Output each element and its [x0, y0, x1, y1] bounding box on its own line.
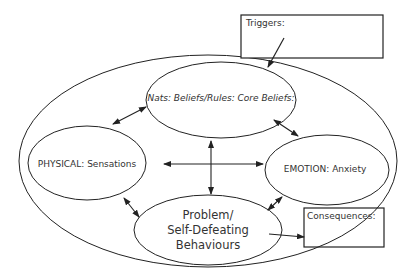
emotion-label: EMOTION: Anxiety [284, 165, 366, 174]
consequences-label: Consequences: [307, 212, 376, 221]
triggers-label: Triggers: [246, 19, 285, 28]
arrow-behaviour-consequences [269, 234, 304, 237]
behaviour-label-line1: Problem/ [148, 208, 268, 223]
cognitions-label: Nats: Beliefs/Rules: Core Beliefs: [147, 94, 294, 103]
arrow-emotion-behaviour [268, 197, 282, 210]
arrow-cognitions-emotion [274, 120, 298, 136]
behaviour-label-line3: Behaviours [148, 238, 268, 253]
behaviour-label-line2: Self-Defeating [148, 223, 268, 238]
arrow-physical-cognitions [113, 107, 146, 124]
arrow-physical-behaviour [124, 198, 139, 217]
behaviour-label: Problem/ Self-Defeating Behaviours [148, 208, 268, 253]
physical-label: PHYSICAL: Sensations [38, 160, 137, 169]
